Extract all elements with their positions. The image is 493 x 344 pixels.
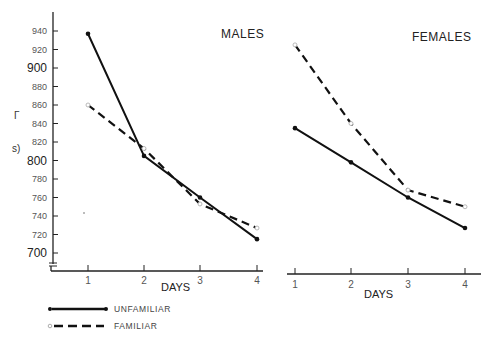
y-tick-label: 880: [32, 82, 47, 92]
y-tick-label: 760: [32, 193, 47, 203]
unfamiliar-line: [295, 128, 465, 228]
males-title: MALES: [221, 27, 264, 41]
open-marker: [255, 226, 259, 230]
open-marker: [293, 43, 297, 47]
artifact-dot: [83, 212, 85, 214]
y-tick-label: 740: [32, 211, 47, 221]
familiar-line: [88, 105, 257, 228]
filled-marker: [293, 126, 298, 131]
x-tick-label: 1: [292, 279, 298, 290]
filled-marker: [142, 154, 147, 159]
males-x-axis-title: DAYS: [161, 281, 190, 293]
y-tick-label: 840: [32, 119, 47, 129]
filled-marker: [198, 195, 203, 200]
open-marker: [349, 122, 353, 126]
y-tick-label: 920: [32, 45, 47, 55]
x-tick-label: 4: [254, 275, 260, 286]
legend-item-unfamiliar: UNFAMILIAR: [48, 304, 171, 314]
x-tick-label: 2: [348, 279, 354, 290]
chart-canvas: 700720740760780800820840860880900920940 …: [0, 0, 493, 344]
filled-marker: [463, 226, 468, 231]
legend: UNFAMILIAR FAMILIAR: [48, 304, 171, 331]
y-tick-label: 800: [27, 154, 47, 168]
open-marker: [86, 103, 90, 107]
legend-label-unfamiliar: UNFAMILIAR: [114, 304, 171, 314]
y-tick-label: 860: [32, 100, 47, 110]
y-axis-label-fragment: Г: [14, 110, 20, 121]
females-title: FEMALES: [412, 30, 472, 44]
filled-marker: [255, 237, 260, 242]
y-axis-label-fragment: s): [12, 143, 20, 154]
x-tick-label: 4: [462, 279, 468, 290]
females-x-ticks: 1234: [292, 268, 468, 290]
females-x-axis-title: DAYS: [364, 288, 393, 300]
filled-marker: [86, 31, 91, 36]
open-marker: [142, 146, 146, 150]
unfamiliar-line: [88, 34, 257, 239]
y-tick-label: 780: [32, 174, 47, 184]
y-tick-label: 700: [27, 246, 47, 260]
legend-item-familiar: FAMILIAR: [48, 321, 157, 331]
x-tick-label: 1: [85, 275, 91, 286]
familiar-line: [295, 45, 465, 207]
y-tick-label: 720: [32, 230, 47, 240]
y-tick-label: 820: [32, 137, 47, 147]
open-marker: [198, 202, 202, 206]
filled-marker: [349, 160, 354, 165]
open-marker: [463, 205, 467, 209]
x-tick-label: 3: [405, 279, 411, 290]
filled-marker: [406, 195, 411, 200]
x-tick-label: 2: [141, 275, 147, 286]
x-tick-label: 3: [197, 275, 203, 286]
y-tick-label: 900: [27, 61, 47, 75]
legend-label-familiar: FAMILIAR: [114, 321, 158, 331]
y-tick-label: 940: [32, 26, 47, 36]
males-axes: [49, 12, 263, 271]
open-marker: [406, 188, 410, 192]
